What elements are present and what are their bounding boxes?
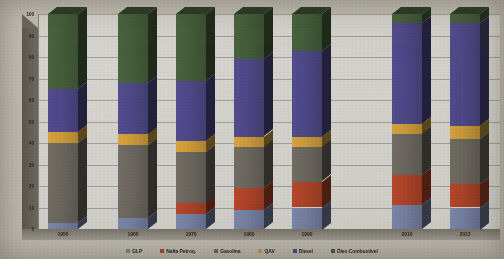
x-axis-tick-2013: 2013: [435, 231, 495, 237]
x-axis-tick-1960: 1960: [103, 231, 163, 237]
bar-segment-1970-leo-combust-vel: [176, 14, 206, 81]
bar-side-segment: [78, 136, 87, 223]
bar-segment-1960-glp: [118, 218, 148, 229]
bar-side-segment: [148, 76, 157, 135]
bar-segment-1950-glp: [48, 223, 78, 229]
bar-segment-1990-gasolina: [292, 147, 322, 181]
bar-segment-1970-gasolina: [176, 152, 206, 204]
bar-segment-1960-leo-combust-vel: [118, 14, 148, 83]
bar-segment-1960-gasolina: [118, 145, 148, 218]
bar-segment-2010-gasolina: [392, 134, 422, 175]
bar-1970: [176, 14, 206, 229]
bar-segment-1950-qav: [48, 132, 78, 143]
bar-segment-1990-leo-combust-vel: [292, 14, 322, 51]
bar-side-face-2010: [422, 14, 431, 229]
bar-side-segment: [206, 74, 215, 141]
legend-label: Gasolina: [220, 248, 240, 254]
bar-segment-1970-glp: [176, 214, 206, 229]
bar-1990: [292, 14, 322, 229]
bar-side-segment: [206, 145, 215, 204]
bar-segment-1950-leo-combust-vel: [48, 14, 78, 89]
bar-segment-2010-glp: [392, 205, 422, 229]
bar-segment-2013-nafta-petroq: [450, 184, 480, 208]
bar-1950: [48, 14, 78, 229]
bar-2013: [450, 14, 480, 229]
bar-side-face-1960: [148, 14, 157, 229]
legend-swatch-icon: [258, 249, 262, 253]
legend-item-leo-combust-vel[interactable]: Óleo Combustível: [331, 248, 378, 254]
x-axis-tick-2010: 2010: [377, 231, 437, 237]
y-axis-tick-100: 100: [6, 11, 34, 17]
x-axis-tick-1990: 1990: [277, 231, 337, 237]
bar-segment-2013-diesel: [450, 23, 480, 126]
bar-2010: [392, 14, 422, 229]
chart-plot-area: 1009080706050403020100 19501960197019801…: [0, 0, 504, 240]
x-axis-tick-1970: 1970: [161, 231, 221, 237]
y-axis-line: [38, 14, 39, 229]
legend-swatch-icon: [126, 249, 130, 253]
bar-side-face-1970: [206, 14, 215, 229]
bar-segment-2010-qav: [392, 124, 422, 135]
legend-label: GLP: [132, 248, 142, 254]
y-axis-tick-90: 90: [6, 33, 34, 39]
bar-segment-1970-qav: [176, 141, 206, 152]
bar-1960: [118, 14, 148, 229]
bar-side-segment: [422, 198, 431, 229]
bar-segment-1980-leo-combust-vel: [234, 14, 264, 59]
y-axis-tick-40: 40: [6, 140, 34, 146]
bar-segment-1960-diesel: [118, 83, 148, 135]
legend-item-qav[interactable]: QAV: [258, 248, 274, 254]
legend-label: Óleo Combustível: [337, 248, 378, 254]
y-axis-tick-0: 0: [6, 226, 34, 232]
legend-swatch-icon: [293, 249, 297, 253]
bar-side-segment: [322, 44, 331, 137]
bar-segment-2013-gasolina: [450, 139, 480, 184]
legend-label: Diesel: [299, 248, 313, 254]
bar-segment-1950-diesel: [48, 89, 78, 132]
bar-side-face-1990: [322, 14, 331, 229]
bar-side-segment: [264, 52, 273, 136]
bar-side-segment: [206, 7, 215, 81]
bar-segment-2013-qav: [450, 126, 480, 139]
y-axis-tick-70: 70: [6, 76, 34, 82]
bar-side-face-1980: [264, 14, 273, 229]
legend-item-diesel[interactable]: Diesel: [293, 248, 313, 254]
bar-segment-1980-diesel: [234, 59, 264, 136]
y-axis-tick-30: 30: [6, 162, 34, 168]
bar-segment-2010-leo-combust-vel: [392, 14, 422, 23]
y-axis-tick-80: 80: [6, 54, 34, 60]
legend-swatch-icon: [331, 249, 335, 253]
bar-side-segment: [148, 7, 157, 83]
bar-segment-1990-diesel: [292, 51, 322, 137]
bar-side-face-1950: [78, 14, 87, 229]
x-axis-tick-1950: 1950: [33, 231, 93, 237]
bar-side-segment: [148, 138, 157, 218]
bar-segment-1980-qav: [234, 137, 264, 148]
bar-segment-1990-nafta-petroq: [292, 182, 322, 208]
bar-segment-2013-leo-combust-vel: [450, 14, 480, 23]
bar-segment-1980-glp: [234, 210, 264, 229]
y-axis-tick-10: 10: [6, 205, 34, 211]
bar-segment-1960-qav: [118, 134, 148, 145]
legend-item-gasolina[interactable]: Gasolina: [214, 248, 240, 254]
bar-segment-2010-diesel: [392, 23, 422, 124]
bar-side-segment: [480, 132, 489, 184]
bar-side-face-2013: [480, 14, 489, 229]
bar-segment-2010-nafta-petroq: [392, 175, 422, 205]
legend-label: Nafta Petroq.: [166, 248, 196, 254]
bar-side-segment: [480, 16, 489, 126]
y-axis-tick-60: 60: [6, 97, 34, 103]
bar-segment-1990-glp: [292, 208, 322, 230]
x-axis-tick-1980: 1980: [219, 231, 279, 237]
y-axis-tick-20: 20: [6, 183, 34, 189]
bar-segment-1950-gasolina: [48, 143, 78, 223]
chart-legend: GLPNafta Petroq.GasolinaQAVDieselÓleo Co…: [0, 243, 504, 259]
bar-segment-1980-nafta-petroq: [234, 188, 264, 210]
legend-label: QAV: [264, 248, 274, 254]
bar-segment-1990-qav: [292, 137, 322, 148]
legend-item-nafta-petroq[interactable]: Nafta Petroq.: [160, 248, 196, 254]
legend-swatch-icon: [160, 249, 164, 253]
legend-item-glp[interactable]: GLP: [126, 248, 142, 254]
bar-1980: [234, 14, 264, 229]
bar-side-segment: [78, 7, 87, 89]
